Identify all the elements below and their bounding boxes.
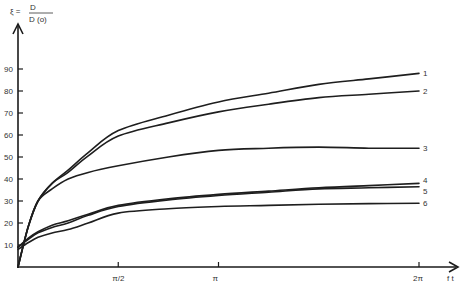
series-line-2 bbox=[18, 91, 419, 267]
y-tick-label: 90 bbox=[4, 65, 13, 74]
y-tick-label: 10 bbox=[4, 241, 13, 250]
x-axis: f t bbox=[17, 262, 458, 283]
series-line-4 bbox=[18, 183, 419, 247]
series-label-5: 5 bbox=[423, 187, 428, 196]
series-label-3: 3 bbox=[423, 144, 428, 153]
y-tick-label: 50 bbox=[4, 153, 13, 162]
ylabel-denominator: D (o) bbox=[29, 15, 47, 24]
y-tick-label: 60 bbox=[4, 131, 13, 140]
series-line-1 bbox=[18, 73, 419, 267]
ylabel-lhs: ξ = bbox=[10, 7, 21, 16]
x-ticks: π/2π2π bbox=[112, 262, 423, 283]
plot-area: ξ = D D (o) f t 102030405060708090 π/2π2… bbox=[0, 0, 468, 286]
series-label-4: 4 bbox=[423, 176, 428, 185]
series-lines bbox=[18, 73, 419, 267]
series-label-1: 1 bbox=[423, 69, 428, 78]
chart: ξ = D D (o) f t 102030405060708090 π/2π2… bbox=[0, 0, 468, 286]
y-axis bbox=[13, 24, 23, 268]
y-tick-label: 70 bbox=[4, 109, 13, 118]
series-label-2: 2 bbox=[423, 87, 428, 96]
x-tick-label: π/2 bbox=[112, 274, 125, 283]
x-tick-label: π bbox=[213, 274, 219, 283]
y-ticks: 102030405060708090 bbox=[4, 65, 23, 250]
y-tick-label: 20 bbox=[4, 219, 13, 228]
series-label-6: 6 bbox=[423, 199, 428, 208]
chart-title: ξ = D D (o) bbox=[10, 3, 53, 24]
y-tick-label: 80 bbox=[4, 87, 13, 96]
y-tick-label: 40 bbox=[4, 175, 13, 184]
series-labels: 123456 bbox=[423, 69, 428, 208]
x-tick-label: 2π bbox=[413, 274, 423, 283]
y-tick-label: 30 bbox=[4, 197, 13, 206]
ylabel-numerator: D bbox=[30, 3, 36, 12]
x-axis-label: f t bbox=[447, 274, 454, 283]
series-line-6 bbox=[18, 203, 419, 249]
